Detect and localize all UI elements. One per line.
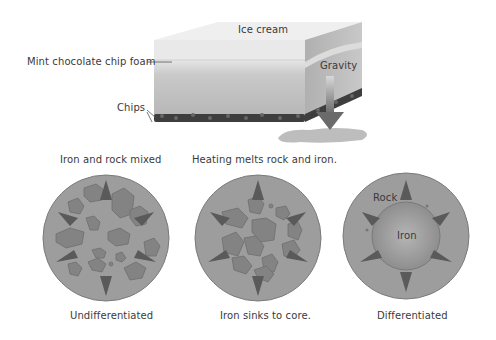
stage-1-bottom-caption: Undifferentiated (70, 310, 153, 321)
planet-undifferentiated (43, 175, 169, 301)
stage-3-bottom-caption: Differentiated (377, 310, 448, 321)
puddle (278, 128, 367, 143)
chips-label: Chips (117, 102, 145, 113)
stage-2-bottom-caption: Iron sinks to core. (220, 310, 311, 321)
planet-iron-sinking (195, 175, 321, 301)
foam-label: Mint chocolate chip foam (27, 56, 156, 67)
stage-2-top-caption: Heating melts rock and iron. (192, 154, 337, 165)
ice-cream-diagram (0, 0, 496, 340)
ice-cream-label: Ice cream (238, 24, 288, 35)
iron-label: Iron (397, 230, 417, 241)
stage-1-top-caption: Iron and rock mixed (60, 154, 161, 165)
gravity-label: Gravity (320, 60, 357, 71)
rock-label: Rock (373, 192, 397, 203)
ice-cream-front-face (154, 60, 305, 120)
